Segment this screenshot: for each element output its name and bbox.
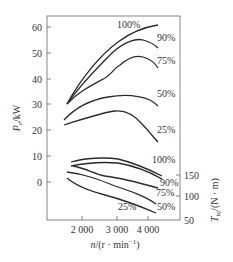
torque-label-100: 100% [152, 154, 175, 165]
y-right-tick-label: 100 [184, 191, 199, 202]
power-label-50: 50% [157, 88, 175, 99]
y-tick-label: 60 [32, 22, 42, 33]
torque-curve-100 [71, 158, 162, 176]
torque-label-25: 25% [118, 201, 136, 212]
power-curve-25 [64, 111, 158, 142]
y-tick-label: 40 [32, 74, 42, 85]
torque-label-50: 50% [157, 201, 175, 212]
y-tick-label: 30 [32, 99, 42, 110]
torque-curve-75 [73, 166, 158, 188]
y-tick-label: 0 [37, 177, 42, 188]
y-tick-label: 50 [32, 48, 42, 59]
engine-characteristic-chart: 60 50 40 30 20 10 0 Pe/kW 150 100 50 Ttq… [0, 0, 233, 262]
power-label-90: 90% [157, 32, 175, 43]
x-axis-title: n/(r · min−1) [90, 238, 139, 251]
left-y-axis: 60 50 40 30 20 10 0 [32, 22, 51, 188]
power-label-25: 25% [157, 124, 175, 135]
y-tick-label: 20 [32, 125, 42, 136]
torque-curve-90 [71, 163, 162, 179]
x-tick-label: 4 000 [137, 224, 160, 235]
x-tick-label: 2 000 [71, 224, 94, 235]
y-right-tick-label: 150 [184, 170, 199, 181]
right-y-axis: 150 100 50 [176, 170, 199, 226]
power-label-100: 100% [117, 19, 140, 30]
power-label-75: 75% [157, 55, 175, 66]
left-axis-title: Pe/kW [11, 104, 24, 132]
power-curve-50 [64, 96, 158, 120]
x-tick-label: 3 000 [106, 224, 129, 235]
right-axis-title: Ttq/(N · m) [209, 178, 222, 222]
torque-label-75: 75% [156, 187, 174, 198]
x-axis: 2 000 3 000 4 000 [71, 216, 160, 235]
torque-curves [67, 158, 162, 213]
y-tick-label: 10 [32, 151, 42, 162]
y-right-tick-label: 50 [184, 215, 194, 226]
power-curves [64, 25, 158, 142]
